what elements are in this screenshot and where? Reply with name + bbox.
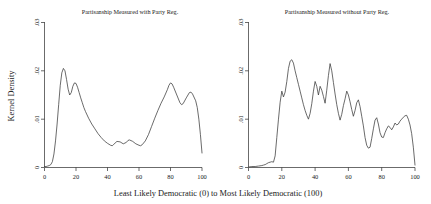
x-tick-label-80: 80	[379, 173, 385, 180]
x-tick-label-60: 60	[136, 173, 142, 180]
x-tick-label-20: 20	[279, 173, 285, 180]
x-tick-label-20: 20	[73, 173, 79, 180]
y-tick-label-03: .03	[237, 19, 244, 27]
x-tick-label-0: 0	[247, 173, 250, 180]
figure-background	[0, 0, 431, 204]
kernel-density-figure: Partisanship Measured with Party Reg. 0 …	[0, 0, 431, 204]
y-axis-title: Kernel Density	[7, 70, 16, 122]
y-tick-label-0: 0	[237, 166, 244, 169]
x-tick-label-40: 40	[312, 173, 318, 180]
x-tick-label-60: 60	[345, 173, 351, 180]
y-tick-label-0: 0	[33, 166, 40, 169]
panel-right-title: Partisanship Measured without Party Reg.	[285, 8, 390, 15]
y-tick-label-02: .02	[237, 67, 244, 75]
figure-canvas: Partisanship Measured with Party Reg. 0 …	[0, 0, 431, 204]
x-tick-label-0: 0	[43, 173, 46, 180]
y-tick-label-01: .01	[33, 115, 40, 123]
x-tick-label-80: 80	[167, 173, 173, 180]
x-tick-label-100: 100	[410, 173, 420, 180]
x-axis-title: Least Likely Democratic (0) to Most Like…	[114, 189, 323, 198]
x-tick-label-40: 40	[104, 173, 110, 180]
y-tick-label-01: .01	[237, 115, 244, 123]
y-tick-label-03: .03	[33, 19, 40, 27]
y-tick-label-02: .02	[33, 67, 40, 75]
x-tick-label-100: 100	[197, 173, 207, 180]
panel-left-title: Partisanship Measured with Party Reg.	[82, 8, 179, 15]
